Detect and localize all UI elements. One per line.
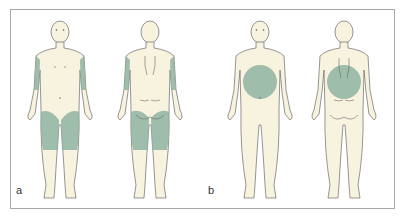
panel-label-b: b <box>208 184 214 196</box>
back-view-a <box>118 21 182 198</box>
body-diagram-b <box>202 0 394 210</box>
body-diagram-a <box>10 0 202 210</box>
panel-a: a <box>10 0 202 200</box>
front-view-a <box>28 21 92 198</box>
back-view-b <box>312 21 376 198</box>
panel-label-a: a <box>16 184 22 196</box>
front-view-b <box>228 21 292 198</box>
panel-b: b <box>202 0 394 200</box>
